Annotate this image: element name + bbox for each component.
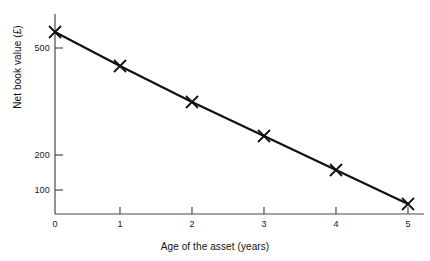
x-tick-label-2: 2 [182, 219, 202, 229]
y-axis-title: Net book value (£) [12, 0, 23, 142]
data-marker-age-4 [330, 164, 342, 176]
x-tick-label-3: 3 [254, 219, 274, 229]
data-series-line [55, 32, 408, 204]
x-tick-label-4: 4 [326, 219, 346, 229]
y-axis-title-wrapper: Net book value (£) [12, 0, 26, 142]
y-tick-label-200: 200 [20, 150, 50, 160]
x-axis-title: Age of the asset (years) [0, 241, 430, 252]
x-tick-label-5: 5 [398, 219, 418, 229]
x-tick-label-0: 0 [45, 219, 65, 229]
y-tick-label-100: 100 [20, 185, 50, 195]
x-tick-label-1: 1 [110, 219, 130, 229]
data-marker-age-3 [258, 130, 270, 142]
chart-figure: 500 200 100 0 1 2 3 4 5 Age of the asset… [0, 0, 430, 261]
data-marker-age-2 [186, 96, 198, 108]
data-marker-age-1 [114, 60, 126, 72]
